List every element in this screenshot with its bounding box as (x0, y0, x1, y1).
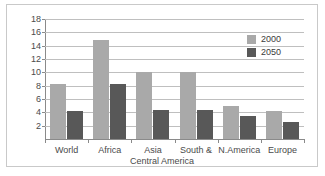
legend-swatch-2000 (247, 35, 256, 44)
y-tick-mark (42, 32, 45, 33)
bar-2050-namerica (240, 116, 256, 139)
y-tick-label: 18 (31, 15, 41, 24)
y-tick-label: 12 (31, 55, 41, 64)
y-axis-line (45, 19, 46, 139)
x-tick-mark (261, 139, 262, 143)
bar-2050-south (197, 110, 213, 139)
y-tick-mark (42, 72, 45, 73)
gridline (45, 99, 304, 100)
x-tick-label-asia: Asia (144, 146, 162, 155)
bar-2050-africa (110, 84, 126, 139)
bar-2000-world (50, 84, 66, 139)
y-tick-label: 2 (36, 121, 41, 130)
y-tick-mark (42, 46, 45, 47)
y-tick-label: 4 (36, 108, 41, 117)
x-tick-mark (88, 139, 89, 143)
legend-label-2000: 2000 (261, 35, 281, 44)
y-tick-label: 10 (31, 68, 41, 77)
y-tick-mark (42, 112, 45, 113)
chart-legend: 2000 2050 (247, 33, 281, 59)
x-tick-mark (175, 139, 176, 143)
x-tick-mark (304, 139, 305, 143)
gridline (45, 19, 304, 20)
legend-swatch-2050 (247, 48, 256, 57)
x-tick-label-world: World (55, 146, 78, 155)
x-tick-mark (218, 139, 219, 143)
bar-2000-south (180, 72, 196, 139)
legend-label-2050: 2050 (261, 48, 281, 57)
y-tick-label: 6 (36, 95, 41, 104)
chart-frame: 24681012141618 WorldAfricaAsiaSouth &N.A… (6, 4, 318, 167)
bar-2000-europe (266, 111, 282, 139)
bar-2000-africa (93, 40, 109, 139)
legend-item-2000: 2000 (247, 33, 281, 46)
x-tick-label-south: South & (180, 146, 212, 155)
bar-2000-namerica (223, 106, 239, 139)
x-tick-label-europe: Europe (268, 146, 297, 155)
x-tick-mark (45, 139, 46, 143)
gridline (45, 72, 304, 73)
y-tick-label: 14 (31, 41, 41, 50)
x-axis-caption-line2: Central America (7, 157, 317, 166)
x-tick-mark (131, 139, 132, 143)
x-tick-label-namerica: N.America (218, 146, 260, 155)
y-tick-mark (42, 99, 45, 100)
gridline (45, 59, 304, 60)
y-tick-mark (42, 19, 45, 20)
y-tick-mark (42, 86, 45, 87)
y-tick-mark (42, 126, 45, 127)
y-tick-mark (42, 59, 45, 60)
bar-2000-asia (136, 72, 152, 139)
x-tick-label-africa: Africa (98, 146, 121, 155)
bar-2050-asia (153, 110, 169, 139)
bar-2050-world (67, 111, 83, 139)
y-tick-label: 16 (31, 28, 41, 37)
gridline (45, 86, 304, 87)
y-tick-label: 8 (36, 81, 41, 90)
bar-2050-europe (283, 122, 299, 139)
legend-item-2050: 2050 (247, 46, 281, 59)
